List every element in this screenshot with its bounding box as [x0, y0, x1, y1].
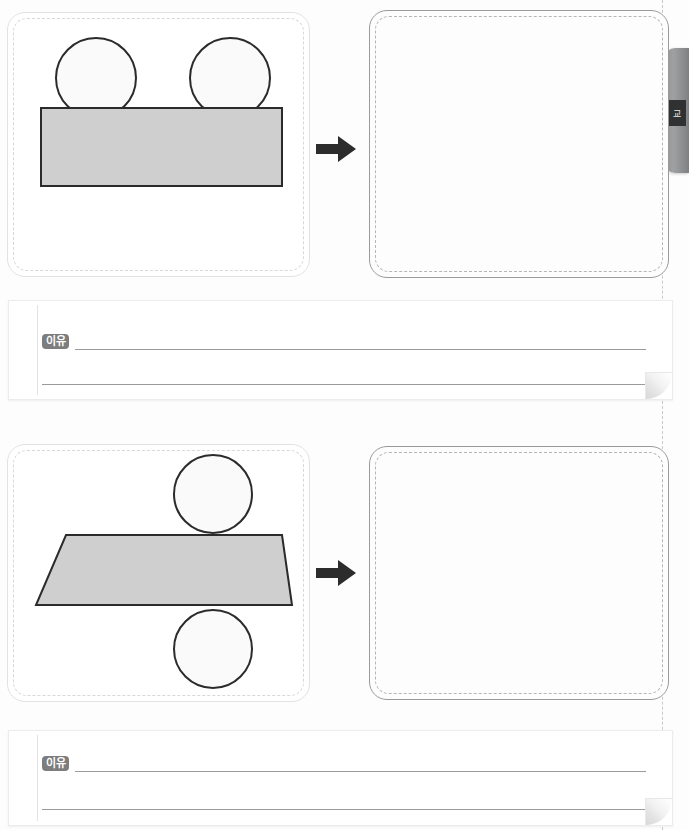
figure-panel-1 — [7, 12, 310, 277]
reason-card-2: 이유 — [8, 730, 673, 826]
problem-block-1 — [0, 0, 689, 290]
reason-write-line-1b[interactable] — [42, 384, 646, 385]
reason-card-1: 이유 — [8, 300, 673, 400]
circle-top-shape — [173, 454, 253, 534]
arrow-right-icon — [314, 557, 358, 589]
reason-badge-1: 이유 — [42, 334, 69, 349]
trapezoid-base-shape — [34, 533, 294, 607]
figure-panel-2 — [7, 444, 310, 702]
circle-bottom-shape — [173, 609, 253, 689]
reason-write-line-2a[interactable] — [75, 771, 646, 772]
answer-panel-inner-dash-1 — [375, 16, 663, 272]
answer-panel-1[interactable] — [369, 10, 669, 278]
reason-margin-line-2 — [37, 735, 38, 821]
rectangle-base-shape — [40, 107, 283, 187]
reason-write-line-1a[interactable] — [75, 349, 646, 350]
arrow-right-icon — [314, 133, 358, 165]
answer-panel-2[interactable] — [369, 446, 669, 700]
page-fold-corner-2 — [645, 798, 672, 825]
reason-write-line-2b[interactable] — [42, 809, 646, 810]
problem-block-2 — [0, 440, 689, 710]
answer-panel-inner-dash-2 — [375, 452, 663, 694]
reason-badge-2: 이유 — [42, 756, 69, 771]
reason-margin-line-1 — [37, 305, 38, 395]
page-fold-corner-1 — [645, 372, 672, 399]
